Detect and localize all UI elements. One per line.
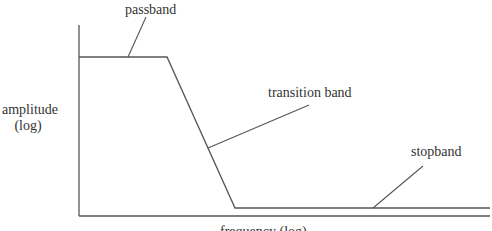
passband-leader-line bbox=[128, 17, 146, 57]
filter-response-diagram bbox=[0, 0, 492, 231]
x-axis-label: frequency (log) bbox=[220, 224, 307, 231]
passband-label: passband bbox=[125, 2, 176, 18]
transition-band-label: transition band bbox=[268, 85, 352, 101]
y-axis-label-line2: (log) bbox=[2, 118, 54, 134]
y-axis-label: amplitude (log) bbox=[2, 102, 54, 134]
stopband-leader-line bbox=[373, 166, 423, 208]
y-axis-label-line1: amplitude bbox=[2, 102, 54, 118]
response-curve bbox=[79, 57, 490, 208]
transition-band-leader-line bbox=[208, 105, 309, 148]
stopband-label: stopband bbox=[411, 144, 462, 160]
